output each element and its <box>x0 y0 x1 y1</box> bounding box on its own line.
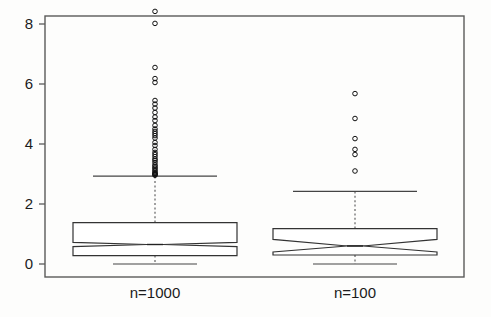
x-axis-label-1: n=100 <box>334 284 376 301</box>
x-axis-labels: n=1000n=100 <box>130 284 376 301</box>
boxplot-group-n-1000 <box>73 9 237 264</box>
box-layer <box>73 9 437 264</box>
box-lower-notch <box>73 245 237 256</box>
outlier-point <box>353 147 358 152</box>
box-upper-notch <box>273 229 437 246</box>
outlier-point <box>153 65 158 70</box>
outlier-point <box>353 91 358 96</box>
outlier-point <box>153 21 158 26</box>
x-axis-label-0: n=1000 <box>130 284 180 301</box>
y-tick-label: 8 <box>25 15 33 32</box>
outlier-point <box>353 116 358 121</box>
outlier-point <box>153 110 158 115</box>
y-tick-label: 2 <box>25 195 33 212</box>
boxplot-group-n-100 <box>273 91 437 264</box>
boxplot-svg: 02468 n=1000n=100 <box>0 0 491 317</box>
y-tick-label: 0 <box>25 255 33 272</box>
box-lower-notch <box>273 246 437 255</box>
outlier-point <box>353 152 358 157</box>
boxplot-figure: 02468 n=1000n=100 <box>0 0 491 317</box>
box-upper-notch <box>73 223 237 245</box>
outlier-point <box>353 136 358 141</box>
y-tick-label: 4 <box>25 135 33 152</box>
outlier-point <box>153 9 158 14</box>
outlier-point <box>353 169 358 174</box>
y-tick-label: 6 <box>25 75 33 92</box>
